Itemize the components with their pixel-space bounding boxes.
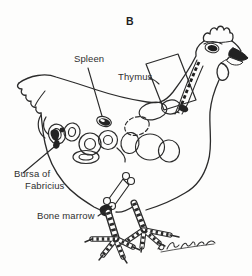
beak	[229, 48, 248, 60]
wattle	[217, 63, 229, 80]
intestine-coils	[38, 115, 125, 164]
bursa-label-line2: Fabricius	[14, 180, 64, 192]
spleen-label: Spleen	[74, 53, 104, 65]
artist-signature	[158, 241, 215, 252]
spleen-organ	[95, 115, 112, 129]
spleen-leader	[88, 68, 102, 116]
comb	[203, 26, 233, 41]
panel-label-b: B	[126, 15, 134, 27]
chicken-head	[203, 26, 248, 80]
bursa-of-fabricius-organ	[51, 128, 65, 149]
chicken-line-art	[0, 0, 252, 276]
bone-and-marrow	[100, 173, 135, 217]
legs-and-feet	[85, 203, 179, 263]
bone-marrow-label: Bone marrow	[37, 210, 95, 222]
thymus-label: Thymus	[118, 71, 152, 83]
anatomy-figure-panel: B Spleen Thymus Bursa of Fabricius Bone …	[0, 0, 252, 276]
internal-organs	[119, 99, 189, 163]
bursa-label-line1: Bursa of	[14, 168, 50, 179]
bursa-of-fabricius-label: Bursa of Fabricius	[14, 168, 64, 191]
neck-and-thymus-chain	[160, 41, 204, 114]
